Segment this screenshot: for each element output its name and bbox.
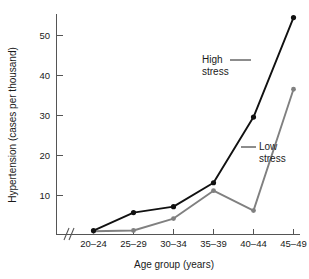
chart-canvas: 10 20 30 40 50 20–24 25–29 30–34 35–39 4… xyxy=(0,0,309,279)
x-tick-label-35-39: 35–39 xyxy=(200,238,226,249)
annotation-high-stress-line1: High xyxy=(202,54,223,65)
x-tick-label-40-44: 40–44 xyxy=(240,238,266,249)
x-axis-title: Age group (years) xyxy=(134,259,214,270)
y-tick-label-10: 10 xyxy=(39,190,50,201)
annotation-high-stress: High stress xyxy=(202,54,251,77)
annotation-low-stress-line2: stress xyxy=(259,153,286,164)
y-tick-label-20: 20 xyxy=(39,150,50,161)
series-high-stress xyxy=(91,15,296,233)
data-point xyxy=(291,87,296,92)
high-stress-markers xyxy=(91,15,296,233)
data-point xyxy=(291,15,296,20)
data-point xyxy=(91,228,96,233)
y-tick-label-30: 30 xyxy=(39,110,50,121)
x-tick-label-20-24: 20–24 xyxy=(80,238,106,249)
annotation-low-stress: Low stress xyxy=(241,141,286,164)
data-point xyxy=(211,188,216,193)
y-tick-label-50: 50 xyxy=(39,30,50,41)
data-point xyxy=(171,204,176,209)
data-point xyxy=(211,180,216,185)
high-stress-line xyxy=(94,18,294,231)
y-axis-title: Hypertension (cases per thousand) xyxy=(7,47,18,203)
y-tick-group: 10 20 30 40 50 xyxy=(39,30,62,201)
annotation-high-stress-line2: stress xyxy=(202,66,229,77)
data-point xyxy=(131,228,136,233)
data-point xyxy=(171,216,176,221)
data-point xyxy=(131,210,136,215)
x-tick-label-45-49: 45–49 xyxy=(280,238,306,249)
axis-group xyxy=(57,14,301,240)
data-point xyxy=(251,114,256,119)
x-tick-label-30-34: 30–34 xyxy=(160,238,186,249)
annotation-low-stress-line1: Low xyxy=(259,141,278,152)
y-tick-label-40: 40 xyxy=(39,70,50,81)
data-point xyxy=(251,208,256,213)
x-tick-label-25-29: 25–29 xyxy=(120,238,146,249)
hypertension-line-chart: 10 20 30 40 50 20–24 25–29 30–34 35–39 4… xyxy=(0,0,309,279)
